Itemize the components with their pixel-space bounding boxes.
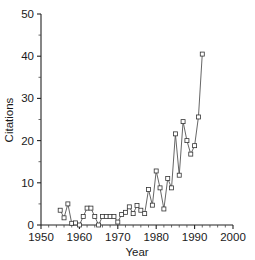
data-point <box>62 216 66 220</box>
data-point <box>127 205 131 209</box>
y-tick-label-20: 20 <box>21 135 34 147</box>
x-tick-label-1980: 1980 <box>143 231 169 243</box>
data-point <box>143 212 147 216</box>
data-point <box>112 215 116 219</box>
data-point <box>131 212 135 216</box>
data-point <box>77 223 81 227</box>
data-point <box>58 208 62 212</box>
data-point <box>154 169 158 173</box>
data-point <box>70 221 74 225</box>
y-tick-label-10: 10 <box>21 177 34 189</box>
data-point <box>89 206 93 210</box>
data-point <box>93 215 97 219</box>
series-marker-group <box>58 52 204 227</box>
data-point <box>150 203 154 207</box>
data-point <box>173 132 177 136</box>
data-point <box>116 220 120 224</box>
data-point <box>162 207 166 211</box>
data-point <box>166 177 170 181</box>
data-point <box>120 212 124 216</box>
data-point <box>85 206 89 210</box>
data-point <box>66 202 70 206</box>
y-tick-label-group: 01020304050 <box>21 8 34 231</box>
y-tick-label-40: 40 <box>21 50 34 62</box>
data-point <box>135 204 139 208</box>
x-tick-label-1990: 1990 <box>182 231 208 243</box>
data-series-citations <box>58 52 204 227</box>
y-tick-label-0: 0 <box>28 219 34 231</box>
data-point <box>104 215 108 219</box>
data-point <box>196 115 200 119</box>
x-tick-label-1970: 1970 <box>105 231 131 243</box>
data-point <box>185 139 189 143</box>
data-point <box>100 215 104 219</box>
data-point <box>108 215 112 219</box>
x-tick-label-group: 195019601970198019902000 <box>28 231 246 243</box>
data-point <box>147 188 151 192</box>
x-tick-label-1950: 1950 <box>28 231 54 243</box>
data-point <box>177 173 181 177</box>
y-axis-title: Citations <box>3 97 15 142</box>
series-line-citations <box>60 54 202 225</box>
citations-per-year-chart: 01020304050 Citations 195019601970198019… <box>0 0 255 260</box>
data-point <box>181 120 185 124</box>
y-tick-label-50: 50 <box>21 8 34 20</box>
chart-canvas: 01020304050 Citations 195019601970198019… <box>0 0 255 260</box>
x-tick-label-2000: 2000 <box>220 231 246 243</box>
data-point <box>81 215 85 219</box>
y-tick-label-30: 30 <box>21 92 34 104</box>
data-point <box>123 210 127 214</box>
data-point <box>189 152 193 156</box>
x-axis: 195019601970198019902000 Year <box>28 225 246 258</box>
data-point <box>170 186 174 190</box>
x-tick-label-1960: 1960 <box>67 231 93 243</box>
data-point <box>158 186 162 190</box>
x-axis-title: Year <box>125 246 148 258</box>
data-point <box>200 52 204 56</box>
data-point <box>193 144 197 148</box>
data-point <box>139 208 143 212</box>
data-point <box>97 223 101 227</box>
data-point <box>74 221 78 225</box>
y-axis: 01020304050 Citations <box>3 8 41 231</box>
